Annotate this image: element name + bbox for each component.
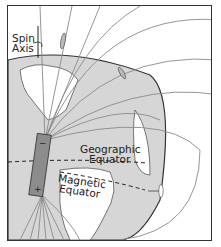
compass-needle-top xyxy=(59,33,66,50)
spin-axis-label-2: Axis xyxy=(12,43,34,54)
magnet-positive-pole: + xyxy=(34,184,42,195)
magnet-negative-pole: − xyxy=(39,138,47,149)
geographic-equator-label-2: Equator xyxy=(89,154,130,165)
